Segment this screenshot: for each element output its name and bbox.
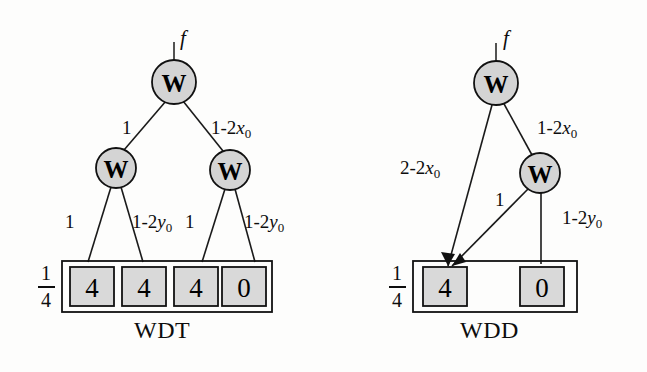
wdd-edge-label-mid-right: 1-2y0 bbox=[562, 208, 602, 230]
wdd-edge-label-root-left-prefix: 2-2 bbox=[400, 157, 425, 178]
wdt-edge-label-root-left: 1 bbox=[122, 118, 132, 137]
wdd-leaf-value-0: 4 bbox=[438, 273, 452, 303]
wdt-leaf-value-2: 4 bbox=[189, 273, 203, 303]
wdd-edge-mid-leaf0 bbox=[452, 189, 528, 266]
wdd-edge-label-root-left: 2-2x0 bbox=[400, 158, 440, 180]
wdd-edge-label-root-right-sub: 0 bbox=[571, 126, 578, 141]
wdt-edge-label-rightmid-right-var: y bbox=[269, 211, 277, 232]
wdt-edge-label-root-right: 1-2x0 bbox=[211, 118, 251, 140]
wdd-scale-fraction: 1 4 bbox=[384, 263, 410, 311]
wdd-scale-fraction-bar bbox=[389, 286, 406, 288]
wdt-edge-label-rightmid-right: 1-2y0 bbox=[244, 212, 284, 234]
wdt-edge-label-leftmid-right-sub: 0 bbox=[166, 220, 173, 235]
wdd-caption: WDD bbox=[460, 318, 519, 342]
wdd-edge-root-leaf0 bbox=[448, 105, 492, 266]
wdd-edge-label-mid-right-sub: 0 bbox=[596, 216, 603, 231]
wdt-edge-leftmid-leaf0 bbox=[88, 187, 111, 262]
wdd-edge-root-mid bbox=[503, 102, 532, 155]
wdt-edge-label-root-right-sub: 0 bbox=[245, 126, 252, 141]
wdt-scale-fraction-denominator: 4 bbox=[33, 290, 59, 311]
wdd-leaf-value-1: 0 bbox=[535, 273, 549, 303]
wdd-root-input-label: f bbox=[503, 28, 509, 49]
wdt-edge-label-leftmid-right-prefix: 1-2 bbox=[132, 211, 157, 232]
wdt-diagram: 4 4 4 0 W W W bbox=[62, 42, 272, 312]
wdt-edge-label-root-right-var: x bbox=[236, 117, 244, 138]
wdt-node-root-label: W bbox=[162, 70, 187, 97]
wdt-leaf-value-1: 4 bbox=[137, 273, 151, 303]
wdt-edge-label-root-right-prefix: 1-2 bbox=[211, 117, 236, 138]
wdt-root-input-label: f bbox=[180, 28, 186, 49]
wdd-edge-label-mid-right-prefix: 1-2 bbox=[562, 207, 587, 228]
wdt-scale-fraction-bar bbox=[38, 286, 55, 288]
wdt-leaf-value-0: 4 bbox=[85, 273, 99, 303]
wdd-edge-label-mid-left: 1 bbox=[495, 190, 505, 209]
wdt-edge-label-leftmid-right-var: y bbox=[157, 211, 165, 232]
wdt-node-left-mid-label: W bbox=[104, 156, 129, 183]
wdt-scale-fraction-numerator: 1 bbox=[33, 263, 59, 284]
wdt-edge-rightmid-leaf2 bbox=[202, 189, 225, 262]
wdt-node-right-mid-label: W bbox=[218, 158, 243, 185]
wdt-edge-label-leftmid-left: 1 bbox=[65, 212, 75, 231]
figure-canvas: 4 4 4 0 W W W bbox=[0, 0, 647, 372]
wdd-edge-label-root-right-var: x bbox=[562, 117, 570, 138]
wdd-edge-label-root-right-prefix: 1-2 bbox=[537, 117, 562, 138]
wdd-edge-label-root-left-var: x bbox=[425, 157, 433, 178]
wdt-edge-label-rightmid-right-sub: 0 bbox=[278, 220, 285, 235]
wdd-node-mid-label: W bbox=[528, 161, 553, 188]
wdt-leaf-value-3: 0 bbox=[237, 273, 251, 303]
wdd-arrowhead-root-leaf0 bbox=[441, 252, 455, 266]
wdt-scale-fraction: 1 4 bbox=[33, 263, 59, 311]
wdd-node-root-label: W bbox=[484, 71, 509, 98]
wdd-edge-label-root-right: 1-2x0 bbox=[537, 118, 577, 140]
diagram-svg-layer: 4 4 4 0 W W W bbox=[0, 0, 647, 372]
wdt-caption: WDT bbox=[134, 318, 190, 342]
wdt-edge-label-rightmid-right-prefix: 1-2 bbox=[244, 211, 269, 232]
wdd-scale-fraction-numerator: 1 bbox=[384, 263, 410, 284]
wdd-scale-fraction-denominator: 4 bbox=[384, 290, 410, 311]
wdt-edge-label-leftmid-right: 1-2y0 bbox=[132, 212, 172, 234]
wdt-edge-label-rightmid-left: 1 bbox=[185, 212, 195, 231]
wdd-edge-label-root-left-sub: 0 bbox=[434, 166, 441, 181]
wdd-edge-label-mid-right-var: y bbox=[587, 207, 595, 228]
